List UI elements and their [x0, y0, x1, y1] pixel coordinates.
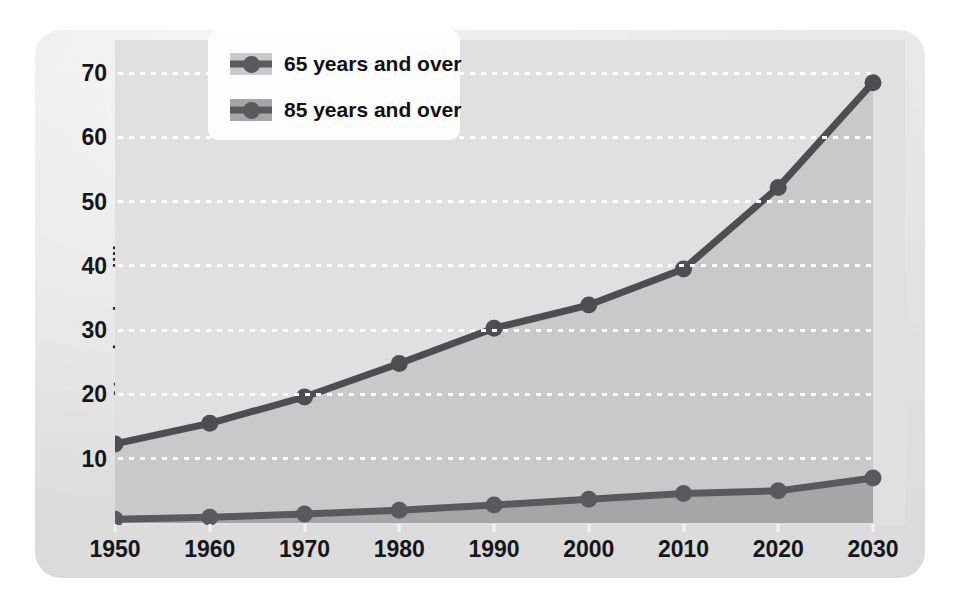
gridline-30	[115, 329, 873, 332]
legend-label-85: 85 years and over	[284, 98, 461, 122]
chart-page: Number in millions 70605040302010 195019…	[0, 0, 955, 603]
y-tick-label-10: 10	[81, 445, 107, 472]
gridline-40	[115, 264, 873, 267]
gridline-50	[115, 200, 873, 203]
x-tick-mark-2030	[872, 524, 875, 532]
data-point	[865, 470, 882, 487]
y-tick-label-20: 20	[81, 381, 107, 408]
data-point	[675, 485, 692, 502]
chart-legend: 65 years and over 85 years and over	[208, 30, 460, 140]
legend-item-65[interactable]: 65 years and over	[230, 41, 460, 87]
x-tick-mark-2010	[682, 524, 685, 532]
data-point	[486, 497, 503, 514]
x-tick-label-1990: 1990	[468, 536, 519, 563]
x-tick-mark-1960	[208, 524, 211, 532]
x-tick-label-1950: 1950	[89, 536, 140, 563]
data-point	[770, 482, 787, 499]
legend-swatch-65-icon	[230, 53, 272, 75]
gridline-10	[115, 457, 873, 460]
legend-item-85[interactable]: 85 years and over	[230, 87, 460, 133]
y-tick-label-40: 40	[81, 252, 107, 279]
y-tick-label-70: 70	[81, 60, 107, 87]
data-point	[201, 415, 218, 432]
x-tick-mark-2020	[777, 524, 780, 532]
data-point	[391, 502, 408, 519]
legend-label-65: 65 years and over	[284, 52, 461, 76]
x-tick-label-1960: 1960	[184, 536, 235, 563]
legend-swatch-85-icon	[230, 99, 272, 121]
y-tick-label-60: 60	[81, 124, 107, 151]
x-tick-label-2010: 2010	[658, 536, 709, 563]
data-point	[391, 355, 408, 372]
data-point	[865, 74, 882, 91]
data-point	[296, 389, 313, 406]
data-point	[770, 179, 787, 196]
x-tick-label-2000: 2000	[563, 536, 614, 563]
data-point	[580, 297, 597, 314]
x-tick-label-1980: 1980	[374, 536, 425, 563]
x-tick-mark-1980	[398, 524, 401, 532]
data-point	[201, 509, 218, 525]
gridline-20	[115, 393, 873, 396]
x-tick-mark-1990	[493, 524, 496, 532]
x-tick-mark-1970	[303, 524, 306, 532]
x-tick-mark-2000	[587, 524, 590, 532]
x-tick-mark-1950	[114, 524, 117, 532]
data-point	[296, 506, 313, 523]
x-tick-label-2020: 2020	[753, 536, 804, 563]
data-point	[580, 491, 597, 508]
y-tick-label-30: 30	[81, 317, 107, 344]
x-tick-label-2030: 2030	[847, 536, 898, 563]
data-point	[675, 261, 692, 278]
x-tick-label-1970: 1970	[279, 536, 330, 563]
y-tick-label-50: 50	[81, 188, 107, 215]
